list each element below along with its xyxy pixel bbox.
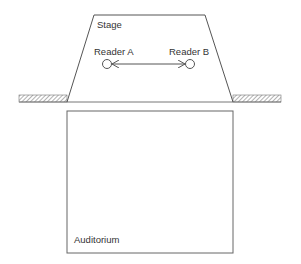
stage-auditorium-diagram: Stage Reader A Reader B Auditorium xyxy=(0,0,301,264)
auditorium-outline xyxy=(67,111,233,253)
stage-label: Stage xyxy=(97,19,122,30)
reader-b-icon xyxy=(186,60,195,69)
reader-b-label: Reader B xyxy=(169,46,209,57)
reader-a-label: Reader A xyxy=(94,46,134,57)
auditorium-label: Auditorium xyxy=(74,234,119,245)
ground-hatch-right xyxy=(233,95,281,102)
reader-a-icon xyxy=(103,60,112,69)
ground-hatch-left xyxy=(19,95,67,102)
stage-outline xyxy=(67,15,233,102)
